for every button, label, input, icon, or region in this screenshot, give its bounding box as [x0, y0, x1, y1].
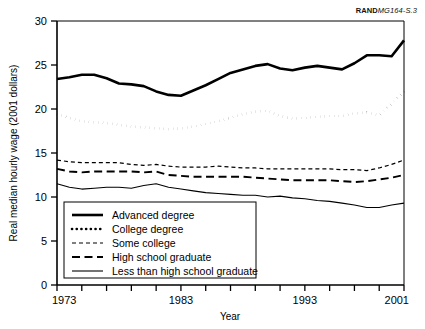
rand-document-id: MG164-S.3: [378, 6, 417, 15]
y-axis-tick-labels: 051015202530: [35, 15, 47, 291]
chart-legend: Advanced degreeCollege degreeSome colleg…: [64, 202, 258, 278]
x-tick-label: 1993: [293, 294, 317, 306]
legend-item-label: High school graduate: [112, 251, 211, 263]
y-tick-label: 15: [35, 147, 47, 159]
y-tick-label: 5: [41, 235, 47, 247]
data-series-group: [57, 40, 404, 207]
y-tick-label: 30: [35, 15, 47, 27]
rand-logo-text: RAND: [356, 6, 378, 15]
legend-item-label: Some college: [112, 237, 176, 249]
x-tick-label: 2001: [385, 294, 409, 306]
y-tick-label: 25: [35, 59, 47, 71]
series-line: [57, 169, 404, 182]
series-line: [57, 91, 404, 129]
legend-item-label: College degree: [112, 223, 183, 235]
x-axis-title: Year: [220, 311, 241, 322]
rand-source-note: RANDMG164-S.3: [356, 6, 417, 15]
x-tick-label: 1983: [169, 294, 193, 306]
x-axis-ticks: [57, 285, 404, 291]
x-axis-tick-labels: 1973198319932001: [52, 294, 409, 306]
y-axis-ticks: [51, 21, 57, 285]
y-tick-label: 10: [35, 191, 47, 203]
x-tick-label: 1973: [52, 294, 76, 306]
series-line: [57, 160, 404, 171]
y-tick-label: 0: [41, 279, 47, 291]
series-line: [57, 40, 404, 95]
legend-item-label: Advanced degree: [112, 209, 194, 221]
y-axis-title: Real median hourly wage (2001 dollars): [8, 65, 19, 242]
chart-canvas: 051015202530 1973198319932001 Real media…: [0, 0, 425, 329]
y-tick-label: 20: [35, 103, 47, 115]
wage-by-education-line-chart: RANDMG164-S.3 051015202530 1973198319932…: [0, 0, 425, 329]
legend-item-label: Less than high school graduate: [112, 265, 258, 277]
